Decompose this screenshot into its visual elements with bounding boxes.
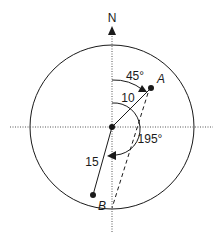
angle-arrow-45-icon [138, 85, 147, 92]
north-arrow-icon [108, 26, 116, 35]
north-label: N [108, 11, 117, 25]
point-b-label: B [98, 199, 106, 213]
bearing-diagram: N 45° A 10 195° B 15 [0, 0, 221, 237]
angle-arc-195 [112, 103, 140, 155]
angle-label-45: 45° [126, 69, 144, 83]
point-b-dot [90, 192, 96, 198]
origin-dot [109, 124, 115, 130]
distance-label-b: 15 [85, 155, 99, 169]
dashed-resultant [112, 93, 148, 208]
point-a-dot [148, 85, 154, 91]
point-a-label: A [156, 72, 165, 86]
distance-label-a: 10 [121, 91, 135, 105]
angle-label-195: 195° [138, 132, 163, 146]
